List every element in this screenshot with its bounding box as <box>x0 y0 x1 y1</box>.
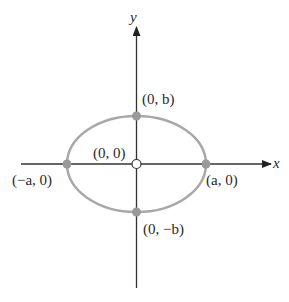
label-right: (a, 0) <box>206 172 238 189</box>
label-top: (0, b) <box>142 91 175 108</box>
label-left: (−a, 0) <box>12 172 52 189</box>
vertex-left <box>63 160 72 169</box>
vertex-bottom <box>132 208 141 217</box>
center-point <box>132 160 141 169</box>
vertex-right <box>202 160 211 169</box>
x-axis-label: x <box>272 155 280 171</box>
ellipse-diagram: y x (0, b) (0, 0) (−a, 0) (a, 0) (0, −b) <box>0 0 289 302</box>
label-bottom: (0, −b) <box>143 221 184 238</box>
vertex-top <box>132 112 141 121</box>
y-axis-label: y <box>128 9 137 25</box>
label-center: (0, 0) <box>93 145 126 162</box>
